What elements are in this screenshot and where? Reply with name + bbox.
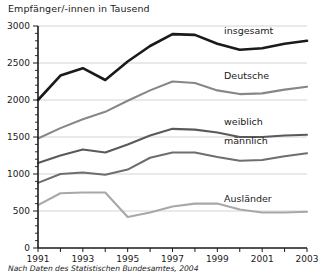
- y-tick-label: 2500: [7, 58, 30, 68]
- series-labels-group: insgesamtDeutscheweiblichmännlichAusländ…: [224, 25, 274, 204]
- y-tick-label: 2000: [7, 95, 30, 105]
- series-label-weiblich: weiblich: [224, 116, 263, 127]
- series-line-insgesamt: [38, 34, 307, 100]
- y-axis-ticks-group: 050010001500200025003000: [7, 21, 38, 253]
- series-label-deutsche: Deutsche: [224, 70, 269, 81]
- y-tick-label: 0: [24, 243, 30, 253]
- y-tick-label: 1500: [7, 132, 30, 142]
- x-tick-label: 2003: [296, 254, 319, 264]
- chart-plot-area: 050010001500200025003000 199119931995199…: [0, 0, 319, 280]
- chart-figure: Empfänger/-innen in Tausend 050010001500…: [0, 0, 319, 280]
- x-tick-label: 1995: [116, 254, 139, 264]
- series-label-ausländer: Ausländer: [224, 193, 272, 204]
- series-label-männlich: männlich: [224, 135, 268, 146]
- x-tick-label: 1999: [206, 254, 229, 264]
- series-label-insgesamt: insgesamt: [224, 25, 274, 36]
- y-tick-label: 3000: [7, 21, 30, 31]
- y-tick-label: 1000: [7, 169, 30, 179]
- x-tick-label: 2001: [251, 254, 274, 264]
- source-note: Nach Daten des Statistischen Bundesamtes…: [8, 264, 199, 273]
- x-tick-label: 1991: [27, 254, 50, 264]
- x-tick-label: 1993: [71, 254, 94, 264]
- x-axis-ticks-group: 1991199319951997199920012003: [27, 248, 319, 264]
- x-tick-label: 1997: [161, 254, 184, 264]
- series-line-männlich: [38, 153, 307, 183]
- data-series-group: [38, 34, 307, 217]
- y-tick-label: 500: [13, 206, 30, 216]
- gridlines-group: [38, 26, 307, 211]
